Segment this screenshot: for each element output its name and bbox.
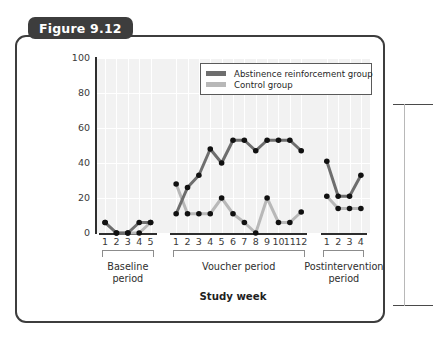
gridline-vertical <box>176 58 177 233</box>
period-label-line: Postintervention <box>296 261 392 273</box>
gridline-vertical <box>128 58 129 233</box>
period-label-line: period <box>296 273 392 285</box>
period-label: Postinterventionperiod <box>296 261 392 284</box>
gridline-vertical <box>116 58 117 233</box>
y-axis-tick-label: 80 <box>64 87 90 98</box>
legend-swatch <box>206 71 226 77</box>
legend-swatch <box>206 82 226 88</box>
period-bracket <box>173 250 305 257</box>
gridline-vertical <box>188 58 189 233</box>
legend-item: Control group <box>206 79 366 90</box>
y-axis-tick-label: 40 <box>64 157 90 168</box>
y-axis-tick-label: 60 <box>64 122 90 133</box>
legend-label: Control group <box>234 80 293 90</box>
chart-legend: Abstinence reinforcement groupControl gr… <box>200 63 372 95</box>
y-axis-tick-label: 100 <box>64 52 90 63</box>
page-edge-line-top <box>393 104 433 105</box>
period-label-line: Baseline <box>80 261 176 273</box>
x-axis-tick-label: 4 <box>352 236 370 247</box>
gridline-vertical <box>105 58 106 233</box>
x-axis-segment <box>170 233 308 235</box>
x-axis-title: Study week <box>96 291 370 302</box>
y-axis-tick-label: 0 <box>64 227 90 238</box>
legend-label: Abstinence reinforcement group <box>234 69 373 79</box>
period-label: Voucher period <box>191 261 287 273</box>
figure-number-tab: Figure 9.12 <box>28 17 133 39</box>
figure-number-label: Figure 9.12 <box>39 21 122 36</box>
period-label-line: Voucher period <box>191 261 287 273</box>
gridline-vertical <box>139 58 140 233</box>
period-label-line: period <box>80 273 176 285</box>
x-axis-tick-label: 12 <box>292 236 310 247</box>
legend-item: Abstinence reinforcement group <box>206 68 366 79</box>
page-edge-line-bottom <box>393 305 433 306</box>
x-axis-tick-label: 5 <box>142 236 160 247</box>
gridline-vertical <box>151 58 152 233</box>
period-bracket <box>323 250 364 257</box>
page-edge-line-right <box>404 104 405 306</box>
period-bracket <box>102 250 154 257</box>
y-axis-line <box>95 57 97 234</box>
x-axis-segment <box>321 233 368 235</box>
y-axis-tick-label: 20 <box>64 192 90 203</box>
x-axis-segment <box>99 233 157 235</box>
period-label: Baselineperiod <box>80 261 176 284</box>
